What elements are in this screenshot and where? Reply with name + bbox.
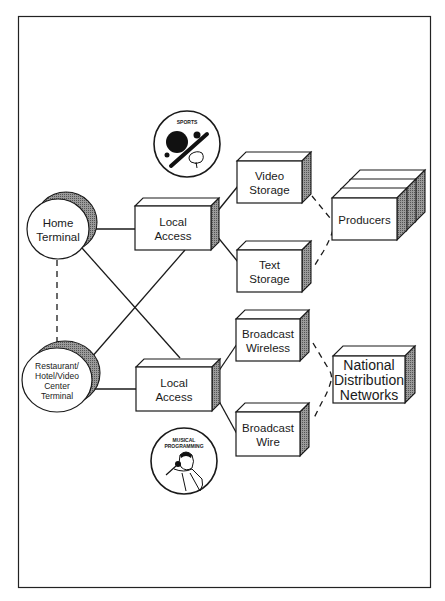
node-label-line: Producers bbox=[338, 214, 391, 226]
box-side-face bbox=[212, 359, 220, 411]
box-side-face bbox=[302, 152, 311, 203]
box-top-face bbox=[237, 152, 311, 161]
node-label-line: Terminal bbox=[41, 391, 73, 401]
node-video-storage: VideoStorage bbox=[237, 152, 311, 203]
node-national-distribution-networks: NationalDistributionNetworks bbox=[333, 346, 415, 403]
box-front-face bbox=[135, 206, 211, 250]
box-top-face bbox=[333, 346, 415, 356]
box-top-face bbox=[332, 188, 407, 198]
node-local-access-top: LocalAccess bbox=[135, 198, 219, 250]
node-label-line: Access bbox=[154, 230, 191, 242]
node-label-line: Access bbox=[155, 391, 192, 403]
box-side-face bbox=[300, 403, 309, 456]
node-broadcast-wire: BroadcastWire bbox=[236, 403, 309, 456]
box-front-face bbox=[236, 412, 300, 456]
node-label-line: Wireless bbox=[246, 342, 290, 354]
node-label-line: Video bbox=[255, 170, 284, 182]
node-label-line: Broadcast bbox=[242, 328, 295, 340]
box-side-face bbox=[405, 346, 415, 403]
box-top-face bbox=[135, 198, 219, 206]
node-label-line: Broadcast bbox=[242, 422, 295, 434]
node-label-line: National bbox=[343, 357, 394, 373]
node-label-line: Center bbox=[44, 381, 70, 391]
node-broadcast-wireless: BroadcastWireless bbox=[236, 310, 309, 361]
node-label-line: Restaurant/ bbox=[35, 361, 80, 371]
node-label-line: Storage bbox=[249, 184, 289, 196]
sports-icon-caption: SPORTS bbox=[177, 119, 198, 125]
node-label-line: Hotel/Video bbox=[35, 371, 79, 381]
box-side-face bbox=[302, 241, 311, 292]
box-top-face bbox=[236, 310, 309, 319]
box-top-face bbox=[237, 241, 311, 250]
node-label-line: Distribution bbox=[334, 372, 404, 388]
node-label-line: Home bbox=[43, 217, 74, 229]
figure-frame bbox=[19, 17, 431, 588]
node-label-line: Text bbox=[259, 259, 281, 271]
node-label-line: Storage bbox=[249, 273, 289, 285]
box-front-face bbox=[236, 319, 300, 361]
box-side-face bbox=[397, 188, 407, 240]
node-label-line: Wire bbox=[256, 436, 280, 448]
music-icon-caption-line-2: PROGRAMMING bbox=[164, 443, 203, 449]
node-label-line: Networks bbox=[340, 387, 398, 403]
terminal-face bbox=[27, 199, 89, 259]
node-text-storage: TextStorage bbox=[237, 241, 311, 292]
node-label-line: Terminal bbox=[36, 231, 79, 243]
diagram-canvas: LocalAccessLocalAccessVideoStorageTextSt… bbox=[0, 0, 445, 601]
box-side-face bbox=[211, 198, 219, 250]
musical-programming-icon: MUSICAL PROGRAMMING bbox=[151, 428, 217, 494]
sports-icon: SPORTS bbox=[154, 111, 220, 177]
box-front-face bbox=[237, 250, 302, 292]
box-front-face bbox=[237, 161, 302, 203]
box-top-face bbox=[236, 403, 309, 412]
box-top-face bbox=[136, 359, 220, 367]
node-local-access-bottom: LocalAccess bbox=[136, 359, 220, 411]
node-label-line: Local bbox=[160, 377, 188, 389]
box-side-face bbox=[300, 310, 309, 361]
box-front-face bbox=[136, 367, 212, 411]
node-label-line: Local bbox=[159, 216, 187, 228]
